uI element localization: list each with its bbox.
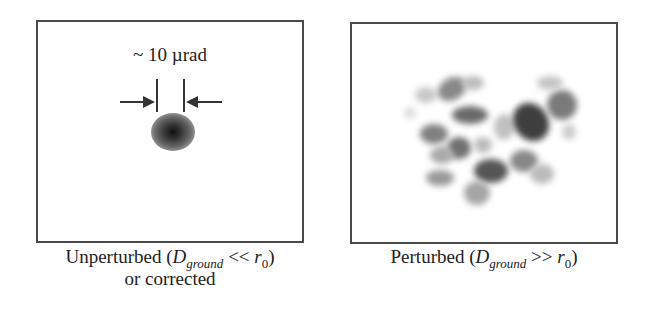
- unperturbed-caption: Unperturbed (Dground << r0) or corrected: [20, 246, 320, 290]
- left-arrowhead-icon: [143, 96, 155, 108]
- focused-spot: [151, 113, 195, 151]
- right-arrow-shaft: [196, 101, 222, 103]
- caption-line-1: Perturbed (Dground >> r0): [334, 246, 634, 268]
- unperturbed-panel: ~ 10 µrad: [36, 20, 304, 243]
- perturbed-caption: Perturbed (Dground >> r0): [334, 246, 634, 268]
- perturbed-panel: [350, 22, 618, 244]
- angular-size-label: ~ 10 µrad: [38, 44, 302, 66]
- caption-line-2: or corrected: [20, 268, 320, 290]
- left-tick: [156, 79, 158, 112]
- right-tick: [183, 79, 185, 112]
- caption-line-1: Unperturbed (Dground << r0): [20, 246, 320, 268]
